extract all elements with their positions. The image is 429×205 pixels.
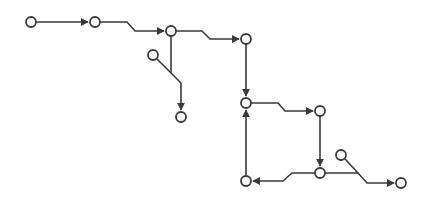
edge-n3b-to-n3c <box>157 59 171 73</box>
node-n7b <box>336 150 346 160</box>
node-n8 <box>241 176 251 186</box>
node-n7 <box>315 168 325 178</box>
node-n1 <box>26 17 36 27</box>
edge-n7-to-n8 <box>253 173 315 181</box>
edge-n2-to-n3 <box>100 22 164 31</box>
node-n6 <box>315 106 325 116</box>
node-n3 <box>166 26 176 36</box>
node-n5 <box>241 98 251 108</box>
node-n4 <box>241 34 251 44</box>
node-n3b <box>148 50 158 60</box>
node-n9 <box>396 178 406 188</box>
edge-n3-to-n3c <box>171 36 181 110</box>
node-n2 <box>90 17 100 27</box>
edge-n7b-to-n9 <box>345 159 358 173</box>
edge-n3-to-n4 <box>176 31 239 39</box>
edge-n7-to-n9 <box>325 173 394 183</box>
flow-diagram <box>0 0 429 205</box>
edge-n5-to-n6 <box>251 103 313 111</box>
node-n3c <box>176 112 186 122</box>
